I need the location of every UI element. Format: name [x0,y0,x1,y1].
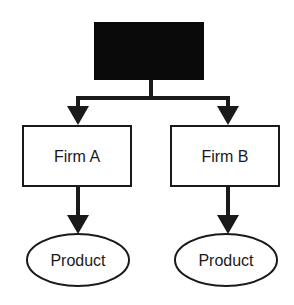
product-b-label: Product [198,252,254,269]
root-box [94,22,204,80]
hierarchy-diagram: Firm A Firm B Product Product [0,0,294,305]
arrowhead-product-b [217,215,239,234]
arrowhead-firm-b [217,106,239,125]
firm-b-label: Firm B [201,148,248,165]
arrowhead-product-a [67,215,89,234]
firm-a-label: Firm A [54,148,101,165]
arrowhead-firm-a [67,106,89,125]
product-a-label: Product [50,252,106,269]
